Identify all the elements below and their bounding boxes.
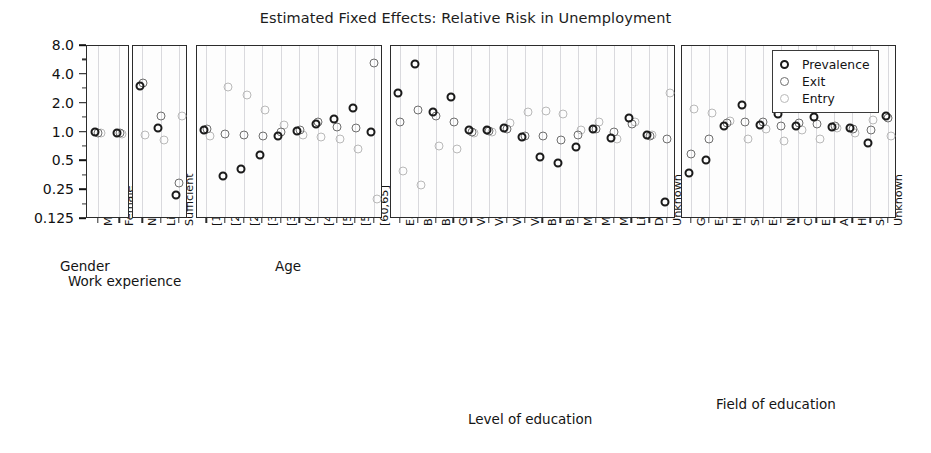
data-point-entry xyxy=(815,135,824,144)
data-point-prevalence xyxy=(154,123,163,132)
group-label: Gender xyxy=(60,258,110,274)
data-point-prevalence xyxy=(330,115,339,124)
legend-label: Prevalence xyxy=(802,58,869,72)
data-point-entry xyxy=(452,144,461,153)
x-tick-mark xyxy=(798,217,799,223)
x-tick-mark xyxy=(852,217,853,223)
y-tick-mark xyxy=(79,73,86,75)
data-point-prevalence xyxy=(237,164,246,173)
x-tick-mark xyxy=(542,217,543,223)
data-point-prevalence xyxy=(809,113,818,122)
data-point-entry xyxy=(141,130,150,139)
y-tick-label: 0.25 xyxy=(43,181,74,197)
x-tick-mark xyxy=(488,217,489,223)
data-point-prevalence xyxy=(311,120,320,129)
x-tick-mark xyxy=(506,217,507,223)
data-point-exit xyxy=(449,117,458,126)
legend-label: Exit xyxy=(802,75,825,89)
gridline xyxy=(318,46,319,217)
data-point-exit xyxy=(663,135,672,144)
legend-item[interactable]: Prevalence xyxy=(780,56,869,73)
y-tick-label: 2.0 xyxy=(52,95,74,111)
group-label: Work experience xyxy=(68,273,181,289)
data-point-prevalence xyxy=(738,101,747,110)
group-label: Age xyxy=(275,258,301,274)
x-tick-mark xyxy=(780,217,781,223)
x-tick-mark xyxy=(666,217,667,223)
legend-item[interactable]: Exit xyxy=(780,73,869,90)
gridline xyxy=(631,46,632,217)
x-tick-mark xyxy=(280,217,281,223)
data-point-entry xyxy=(541,106,550,115)
data-point-prevalence xyxy=(112,128,121,137)
data-point-prevalence xyxy=(367,127,376,136)
x-tick-mark xyxy=(649,217,650,223)
data-point-prevalence xyxy=(702,155,711,164)
x-tick-mark xyxy=(470,217,471,223)
data-point-prevalence xyxy=(464,126,473,135)
plot-area xyxy=(87,46,128,217)
data-point-entry xyxy=(159,136,168,145)
data-point-entry xyxy=(261,105,270,114)
x-tick-mark xyxy=(299,217,300,223)
data-point-prevalence xyxy=(518,132,527,141)
x-tick-mark xyxy=(631,217,632,223)
x-tick-mark xyxy=(206,217,207,223)
data-point-exit xyxy=(258,131,267,140)
y-tick-mark xyxy=(79,131,86,133)
data-point-exit xyxy=(776,121,785,130)
data-point-prevalence xyxy=(500,123,509,132)
data-point-entry xyxy=(372,195,381,204)
data-point-prevalence xyxy=(756,120,765,129)
x-tick-mark xyxy=(160,217,161,223)
y-tick-mark xyxy=(79,44,86,46)
data-point-exit xyxy=(741,117,750,126)
gridline xyxy=(453,46,454,217)
x-tick-mark xyxy=(708,217,709,223)
x-tick-mark xyxy=(119,217,120,223)
data-point-exit xyxy=(396,117,405,126)
x-tick-mark xyxy=(595,217,596,223)
plot-area xyxy=(391,46,674,217)
x-tick-mark xyxy=(373,217,374,223)
data-point-prevalence xyxy=(881,111,890,120)
data-point-exit xyxy=(351,123,360,132)
x-tick-mark xyxy=(354,217,355,223)
gridline xyxy=(709,46,710,217)
gridline xyxy=(560,46,561,217)
data-point-prevalence xyxy=(863,138,872,147)
y-tick-label: 8.0 xyxy=(52,37,74,53)
data-point-exit xyxy=(866,126,875,135)
data-point-prevalence xyxy=(571,143,580,152)
chart-root: Estimated Fixed Effects: Relative Risk i… xyxy=(0,0,931,453)
x-tick-mark xyxy=(453,217,454,223)
x-tick-mark xyxy=(726,217,727,223)
x-tick-mark xyxy=(261,217,262,223)
legend-item[interactable]: Entry xyxy=(780,90,869,107)
y-tick-mark xyxy=(79,102,86,104)
data-point-entry xyxy=(416,181,425,190)
data-point-prevalence xyxy=(91,127,100,136)
x-tick-mark xyxy=(435,217,436,223)
data-point-prevalence xyxy=(482,126,491,135)
data-point-entry xyxy=(224,82,233,91)
data-point-entry xyxy=(434,142,443,151)
x-tick-mark xyxy=(524,217,525,223)
x-tick-mark xyxy=(613,217,614,223)
gridline xyxy=(745,46,746,217)
data-point-entry xyxy=(887,131,896,140)
data-point-exit xyxy=(414,105,423,114)
data-point-prevalence xyxy=(845,123,854,132)
data-point-exit xyxy=(687,149,696,158)
data-point-prevalence xyxy=(792,121,801,130)
data-point-exit xyxy=(370,59,379,68)
x-tick-mark xyxy=(690,217,691,223)
data-point-exit xyxy=(538,131,547,140)
data-point-entry xyxy=(317,132,326,141)
panel-work-experience xyxy=(132,45,187,218)
data-point-entry xyxy=(708,108,717,117)
x-tick-mark xyxy=(869,217,870,223)
gridline xyxy=(667,46,668,217)
data-point-exit xyxy=(574,130,583,139)
x-tick-mark xyxy=(560,217,561,223)
